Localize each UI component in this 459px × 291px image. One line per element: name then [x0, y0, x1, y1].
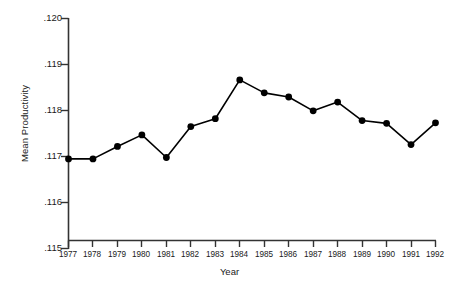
data-point-1984 [236, 77, 243, 84]
data-point-1982 [187, 123, 194, 130]
data-point-1992 [432, 119, 439, 126]
data-point-1988 [334, 99, 341, 106]
data-point-1990 [383, 120, 390, 127]
data-point-1983 [212, 115, 219, 122]
data-point-1991 [408, 141, 415, 148]
data-point-1978 [90, 156, 97, 163]
data-point-1985 [261, 89, 268, 96]
data-point-1989 [359, 117, 366, 124]
series-markers [65, 77, 439, 163]
series-line [69, 80, 436, 159]
chart-canvas [0, 0, 459, 291]
data-point-1979 [114, 143, 121, 150]
data-point-1986 [285, 94, 292, 101]
data-point-1981 [163, 154, 170, 161]
chart-figure: Mean Productivity Year .120 .119 .118 .1… [0, 0, 459, 291]
data-point-1987 [310, 107, 317, 114]
y-axis [61, 18, 69, 249]
data-point-1977 [65, 156, 72, 163]
x-axis [68, 241, 436, 248]
data-point-1980 [139, 131, 146, 138]
